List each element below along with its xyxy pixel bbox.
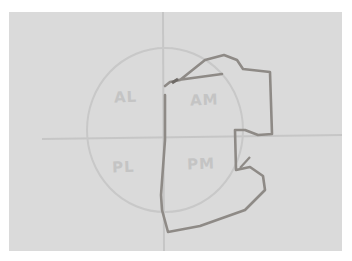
label-am: AM: [190, 91, 219, 110]
label-pl: PL: [112, 158, 135, 177]
traced-boundary-path: [161, 55, 272, 232]
diagram-canvas: [0, 0, 352, 261]
label-al: AL: [114, 88, 138, 107]
label-pm: PM: [187, 155, 216, 174]
pencil-tick-mark: [172, 79, 178, 83]
